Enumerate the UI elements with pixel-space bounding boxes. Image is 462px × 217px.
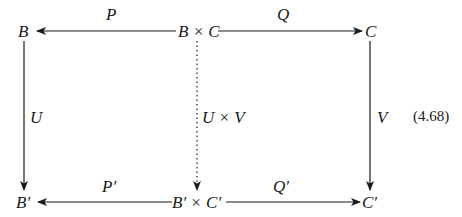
label-u: U — [30, 109, 42, 126]
label-p: P — [106, 6, 116, 23]
node-b: B — [18, 23, 28, 40]
equation-number: (4.68) — [413, 109, 449, 124]
node-b-times-c: B × C — [178, 23, 220, 40]
node-b-prime: B′ — [16, 194, 30, 211]
node-b-prime-times-c-prime: B′ × C′ — [172, 194, 221, 211]
node-c-prime: C′ — [362, 194, 377, 211]
label-p-prime: P′ — [102, 178, 116, 195]
node-c: C — [365, 23, 376, 40]
label-q: Q — [277, 6, 289, 23]
label-u-times-v: U × V — [202, 109, 245, 126]
label-q-prime: Q′ — [273, 178, 289, 195]
label-v: V — [377, 109, 387, 126]
